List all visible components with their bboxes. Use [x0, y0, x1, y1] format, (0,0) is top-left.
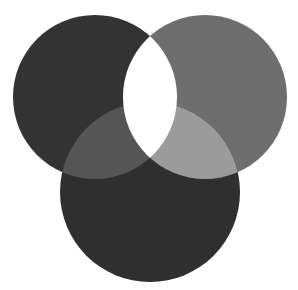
venn-diagram: [0, 0, 298, 290]
venn-svg: [0, 0, 298, 290]
